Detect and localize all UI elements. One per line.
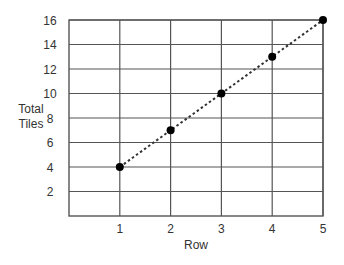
y-axis-label-line-1: Total <box>18 102 43 116</box>
line-chart: 246810121416 12345 Total Tiles Row <box>0 0 344 265</box>
y-tick-label: 16 <box>43 14 57 28</box>
y-tick-label: 10 <box>43 87 57 101</box>
y-axis-ticks: 246810121416 <box>43 14 57 200</box>
x-axis-label: Row <box>184 238 208 252</box>
x-axis-ticks: 12345 <box>116 222 326 236</box>
data-point <box>116 163 124 171</box>
y-tick-label: 14 <box>43 38 57 52</box>
data-point <box>167 126 175 134</box>
x-tick-label: 5 <box>320 222 327 236</box>
data-point <box>217 90 225 98</box>
x-tick-label: 3 <box>218 222 225 236</box>
y-tick-label: 2 <box>47 185 54 199</box>
data-point <box>268 53 276 61</box>
data-point <box>319 16 327 24</box>
y-axis-label-line-2: Tiles <box>19 117 44 131</box>
grid <box>69 20 323 216</box>
y-tick-label: 12 <box>43 63 57 77</box>
x-tick-label: 2 <box>167 222 174 236</box>
x-tick-label: 1 <box>116 222 123 236</box>
y-tick-label: 6 <box>47 136 54 150</box>
y-tick-label: 4 <box>47 161 54 175</box>
y-tick-label: 8 <box>47 112 54 126</box>
x-tick-label: 4 <box>269 222 276 236</box>
